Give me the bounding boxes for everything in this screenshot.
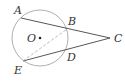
label-o: O bbox=[27, 32, 36, 45]
geometry-diagram: A B C D E O bbox=[0, 0, 125, 84]
label-b: B bbox=[67, 15, 76, 28]
label-a: A bbox=[13, 4, 22, 17]
label-e: E bbox=[13, 64, 22, 77]
label-c: C bbox=[114, 32, 123, 45]
label-d: D bbox=[66, 51, 76, 64]
center-dot bbox=[39, 37, 42, 40]
